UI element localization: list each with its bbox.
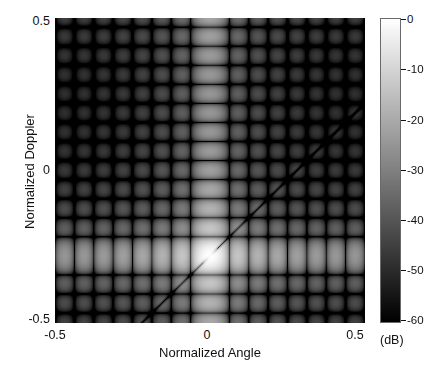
colorbar-tick-30: -30 [401,165,424,177]
colorbar-tick-dash [401,220,406,221]
colorbar-units-label: (dB) [380,333,404,347]
colorbar-tick-label: 0 [407,13,413,25]
x-axis-label: Normalized Angle [55,345,365,360]
x-axis-tick-left: -0.5 [34,329,76,342]
colorbar-tick-dash [401,120,406,121]
colorbar-tick-60: -60 [401,315,424,327]
x-axis-tick-right: 0.5 [334,329,376,342]
y-axis-label: Normalized Doppler [22,19,37,324]
heatmap-image [55,18,365,323]
colorbar-tick-label: -10 [407,63,424,75]
colorbar-tick-20: -20 [401,115,424,127]
colorbar-tick-dash [401,320,406,321]
colorbar-tick-0: 0 [401,14,413,26]
colorbar-tick-dash [401,170,406,171]
colorbar-tick-10: -10 [401,64,424,76]
ambiguity-function-figure: 0.5 0 -0.5 -0.5 0 0.5 Normalized Angle N… [0,0,439,369]
x-axis-tick-mid: 0 [186,329,228,342]
colorbar-tick-label: -60 [407,314,424,326]
colorbar-tick-dash [401,270,406,271]
colorbar-tick-50: -50 [401,265,424,277]
heatmap-plot-area [55,18,365,323]
colorbar-tick-label: -50 [407,264,424,276]
colorbar-tick-label: -20 [407,114,424,126]
colorbar-tick-label: -30 [407,164,424,176]
y-axis-tick-mid: 0 [43,164,50,177]
colorbar-tick-label: -40 [407,214,424,226]
colorbar-tick-40: -40 [401,215,424,227]
colorbar-tick-dash [401,19,406,20]
colorbar [380,18,401,323]
colorbar-tick-dash [401,69,406,70]
colorbar-gradient [380,18,401,323]
